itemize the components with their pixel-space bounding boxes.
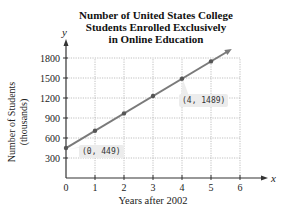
chart: Number of United States College Students… xyxy=(0,0,281,218)
axes: xy xyxy=(61,26,276,184)
grid-lines xyxy=(66,58,240,178)
x-tick-label: 2 xyxy=(122,182,127,193)
data-point xyxy=(209,59,213,63)
y-tick-label: 1200 xyxy=(40,93,60,104)
y-tick-label: 900 xyxy=(45,113,60,124)
y-tick-label: 300 xyxy=(45,153,60,164)
x-tick-label: 4 xyxy=(180,182,185,193)
y-tick-label: 1800 xyxy=(40,53,60,64)
y-axis-arrow-icon xyxy=(64,39,69,46)
x-axis-symbol: x xyxy=(270,172,276,184)
point-label-year4: (4, 1489) xyxy=(179,94,228,107)
data-point xyxy=(64,146,68,150)
data-point xyxy=(122,111,126,115)
x-axis-arrow-icon xyxy=(261,176,268,181)
callout-pointers xyxy=(67,80,189,149)
x-tick-label: 0 xyxy=(64,182,69,193)
data-point xyxy=(180,77,184,81)
x-tick-label: 1 xyxy=(93,182,98,193)
data-point xyxy=(151,94,155,98)
y-tick-label: 600 xyxy=(45,133,60,144)
y-axis-symbol: y xyxy=(61,26,67,38)
plot-area: 3006009001200150018000123456 xy xyxy=(0,0,281,218)
x-axis-title: Years after 2002 xyxy=(93,195,213,206)
data-point xyxy=(93,129,97,133)
x-tick-label: 6 xyxy=(238,182,243,193)
axis-ticks: 3006009001200150018000123456 xyxy=(40,53,243,194)
x-tick-label: 3 xyxy=(151,182,156,193)
x-tick-label: 5 xyxy=(209,182,214,193)
point-label-origin: (0, 449) xyxy=(79,145,124,158)
y-tick-label: 1500 xyxy=(40,73,60,84)
